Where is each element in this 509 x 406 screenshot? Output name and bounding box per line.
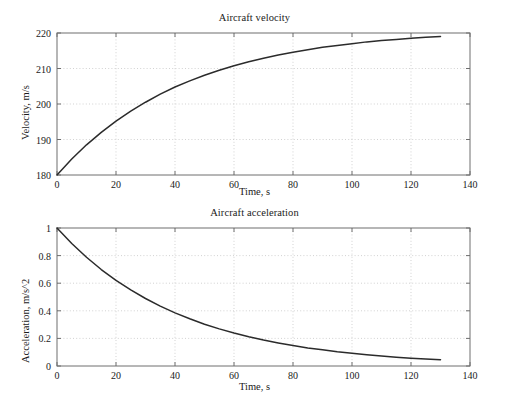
x-axis-label-acceleration: Time, s [0,381,509,392]
x-tick-label: 120 [404,370,419,381]
x-tick-label: 20 [111,179,121,190]
y-tick-label: 200 [0,99,51,110]
y-tick-label: 210 [0,63,51,74]
x-tick-label: 80 [288,179,298,190]
x-tick-label: 60 [229,370,239,381]
x-tick-label: 100 [345,179,360,190]
y-axis-label-acceleration: Acceleration, m/s^2 [20,279,31,363]
y-axis-label-velocity: Velocity, m/s [20,85,31,140]
plot-area-acceleration [0,203,509,406]
data-curve-acceleration [57,228,441,360]
y-tick-label: 0.2 [0,333,51,344]
x-tick-label: 100 [345,370,360,381]
x-tick-label: 80 [288,370,298,381]
x-axis-label-velocity: Time, s [0,186,509,197]
plot-frame [57,228,470,366]
x-tick-label: 20 [111,370,121,381]
plot-area-velocity [0,0,509,203]
y-tick-label: 0.8 [0,250,51,261]
x-tick-label: 0 [55,179,60,190]
x-tick-label: 0 [55,370,60,381]
chart-panel-velocity: Aircraft velocity Time, s Velocity, m/s … [0,0,509,203]
x-tick-label: 120 [404,179,419,190]
x-tick-label: 140 [463,370,478,381]
chart-panel-acceleration: Aircraft acceleration Time, s Accelerati… [0,203,509,406]
y-tick-label: 0.6 [0,278,51,289]
y-tick-label: 180 [0,170,51,181]
y-tick-label: 0.4 [0,305,51,316]
x-tick-label: 60 [229,179,239,190]
plot-frame [57,33,470,175]
y-tick-label: 190 [0,134,51,145]
x-tick-label: 140 [463,179,478,190]
y-tick-label: 1 [0,223,51,234]
y-tick-label: 220 [0,28,51,39]
data-curve-velocity [57,37,441,175]
y-tick-label: 0 [0,361,51,372]
figure-container: Aircraft velocity Time, s Velocity, m/s … [0,0,509,406]
x-tick-label: 40 [170,370,180,381]
x-tick-label: 40 [170,179,180,190]
